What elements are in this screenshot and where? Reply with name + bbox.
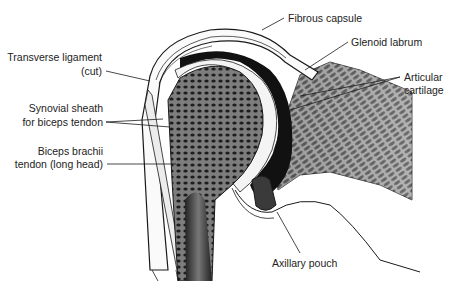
label-glenoid-labrum: Glenoid labrum [351,36,422,48]
label-articular-cartilage-line2: cartilage [404,84,444,96]
label-transverse-ligament-line1: Transverse ligament [7,51,102,63]
leader-fibrous-capsule [262,18,284,30]
label-fibrous-capsule: Fibrous capsule [288,12,362,24]
label-synovial-sheath-line2: for biceps tendon [22,116,103,128]
label-biceps-tendon-line1: Biceps brachii [38,145,103,157]
leader-transverse-ligament [106,71,150,81]
label-transverse-ligament-line2: (cut) [81,65,102,77]
shoulder-joint-diagram: Fibrous capsule Glenoid labrum Articular… [0,0,453,281]
label-axillary-pouch: Axillary pouch [272,257,337,269]
leader-axillary-pouch [277,212,300,253]
label-biceps-tendon-line2: tendon (long head) [15,158,103,170]
leader-synovial-sheath-b [106,122,170,127]
label-synovial-sheath-line1: Synovial sheath [29,102,103,114]
label-articular-cartilage-line1: Articular [404,71,443,83]
